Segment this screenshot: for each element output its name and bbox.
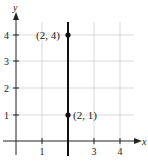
ticks: [13, 35, 120, 144]
x-axis-arrow-icon: [134, 138, 142, 144]
y-tick-4: 4: [4, 30, 9, 41]
x-tick-3: 3: [92, 146, 97, 157]
x-tick-1: 1: [40, 146, 45, 157]
y-tick-2: 2: [4, 83, 9, 94]
point-2-4: [65, 32, 70, 37]
axes: [3, 16, 138, 155]
point-label-2-4: (2, 4): [36, 29, 60, 42]
y-axis-arrow-icon: [13, 12, 19, 20]
x-tick-4: 4: [118, 146, 123, 157]
point-2-1: [65, 112, 70, 117]
y-tick-1: 1: [4, 110, 9, 121]
x-axis-label: x: [141, 136, 147, 147]
y-tick-3: 3: [4, 56, 9, 67]
y-axis-label: y: [12, 2, 18, 13]
chart: 1 3 4 1 2 3 4 x y (2, 4) (2, 1): [0, 0, 148, 168]
point-label-2-1: (2, 1): [73, 109, 97, 122]
